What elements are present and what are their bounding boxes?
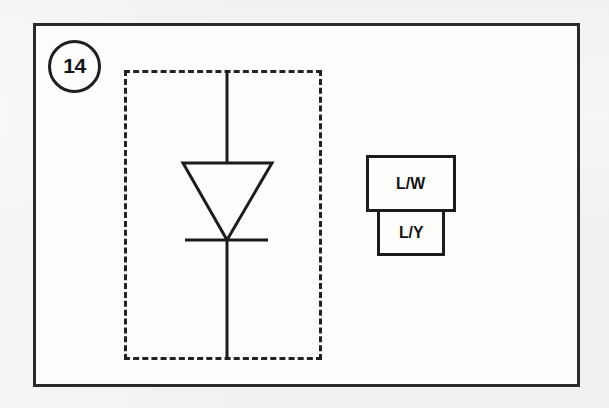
dashed-enclosure-boundary xyxy=(124,70,322,360)
figure-root: 14 L/W L/Y xyxy=(0,0,609,408)
connector-label-lower: L/Y xyxy=(399,224,424,241)
connector-stack: L/W L/Y xyxy=(366,155,456,256)
connector-label-upper: L/W xyxy=(397,175,426,192)
figure-number-badge: 14 xyxy=(48,40,101,93)
connector-box-lower: L/Y xyxy=(377,209,445,256)
connector-box-upper: L/W xyxy=(366,155,456,212)
figure-number-label: 14 xyxy=(63,55,85,76)
